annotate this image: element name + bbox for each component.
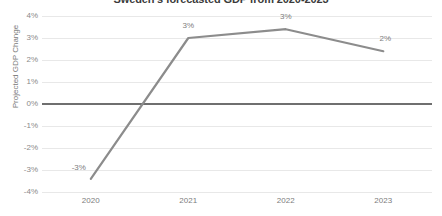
y-tick-label: -4% [10,188,38,196]
y-tick-label: -2% [10,144,38,152]
data-point-label: -3% [72,163,86,172]
y-tick-label: 3% [10,34,38,42]
gridline [42,192,432,193]
chart-title: Sweden's forecasted GDP from 2020-2023 [0,0,442,5]
data-point-label: 3% [280,12,292,21]
data-point-label: 2% [379,34,391,43]
y-tick-label: 1% [10,78,38,86]
data-point-label: 3% [182,21,194,30]
x-axis-tick-labels: 2020202120222023 [42,196,432,210]
y-tick-label: 4% [10,12,38,20]
y-tick-label: 0% [10,100,38,108]
y-tick-label: -1% [10,122,38,130]
plot-area: -3%3%3%2% [42,16,432,192]
x-tick-label: 2020 [82,196,100,205]
y-axis-tick-labels: 4%3%2%1%0%-1%-2%-3%-4% [4,0,38,216]
chart-container: Sweden's forecasted GDP from 2020-2023 P… [0,0,442,216]
line-series [42,16,432,192]
x-tick-label: 2022 [277,196,295,205]
series-polyline [91,29,384,179]
y-tick-label: -3% [10,166,38,174]
x-tick-label: 2023 [374,196,392,205]
y-tick-label: 2% [10,56,38,64]
x-tick-label: 2021 [179,196,197,205]
